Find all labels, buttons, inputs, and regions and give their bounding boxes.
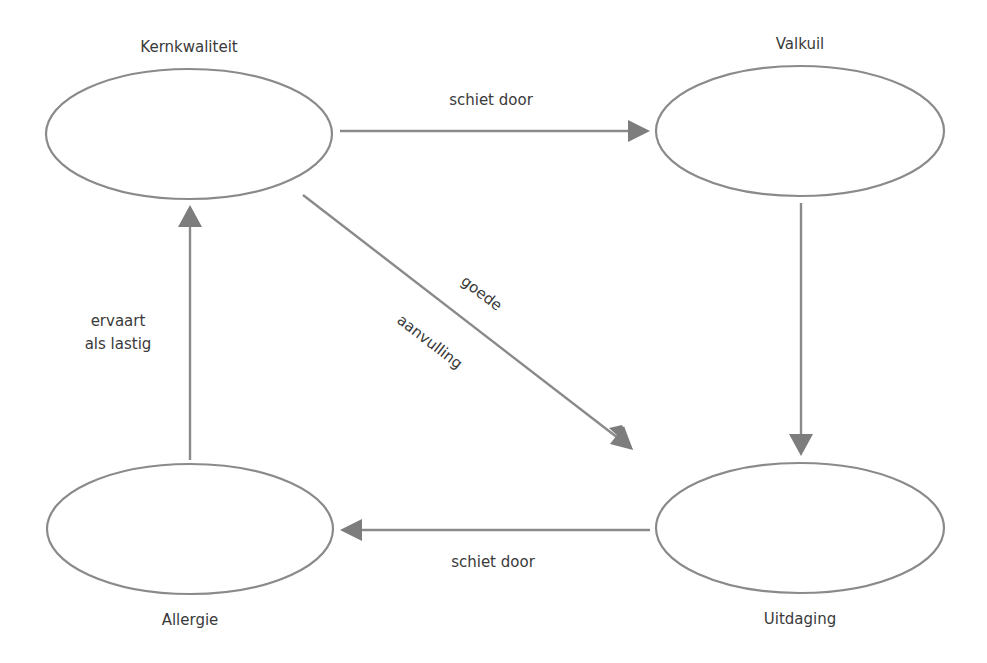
edge-label-ervaart: ervaart <box>91 312 146 330</box>
arrow-right-icon <box>628 120 650 142</box>
kernkwadrant-diagram: Kernkwaliteit Valkuil Allergie Uitdaging… <box>0 0 987 663</box>
arrow-down-icon <box>789 434 813 456</box>
edge-label-aanvulling: aanvulling <box>394 311 467 373</box>
edge-kernkwaliteit-uitdaging: goede aanvulling <box>303 195 633 450</box>
node-valkuil-ellipse <box>656 66 944 196</box>
edge-kernkwaliteit-valkuil: schiet door <box>340 91 650 142</box>
node-uitdaging-ellipse <box>656 463 944 593</box>
node-kernkwaliteit-label: Kernkwaliteit <box>140 38 237 56</box>
edge-label-goede: goede <box>458 272 506 315</box>
edge-valkuil-uitdaging <box>789 203 813 456</box>
edge-allergie-kernkwaliteit: ervaart als lastig <box>85 205 202 460</box>
edge-label-schiet-door-bottom: schiet door <box>451 553 535 571</box>
node-allergie: Allergie <box>47 464 333 629</box>
edge-uitdaging-allergie: schiet door <box>340 519 650 571</box>
edge-label-schiet-door-top: schiet door <box>449 91 533 109</box>
arrow-left-icon <box>340 519 362 541</box>
node-allergie-label: Allergie <box>162 611 219 629</box>
arrow-up-icon <box>178 205 202 227</box>
edge-line <box>303 195 618 438</box>
node-valkuil: Valkuil <box>656 35 944 196</box>
edge-label-als-lastig: als lastig <box>85 335 152 353</box>
node-valkuil-label: Valkuil <box>776 35 825 53</box>
node-uitdaging: Uitdaging <box>656 463 944 628</box>
node-kernkwaliteit-ellipse <box>46 69 332 199</box>
node-allergie-ellipse <box>47 464 333 594</box>
node-uitdaging-label: Uitdaging <box>764 610 836 628</box>
node-kernkwaliteit: Kernkwaliteit <box>46 38 332 199</box>
